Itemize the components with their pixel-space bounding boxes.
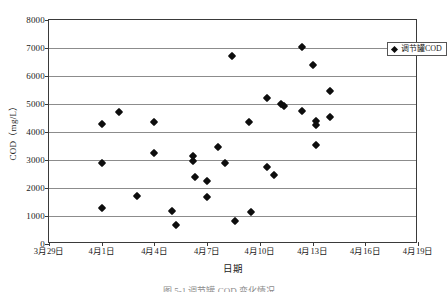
y-axis-tick xyxy=(45,132,49,133)
data-point xyxy=(298,107,306,115)
y-axis-tick xyxy=(45,48,49,49)
data-point xyxy=(203,177,211,185)
data-point xyxy=(270,171,278,179)
legend: 调节罐COD xyxy=(387,42,447,56)
gridline xyxy=(49,76,416,77)
x-axis-tick-label: 4月16日 xyxy=(350,247,381,256)
x-axis-tick-label: 4月10日 xyxy=(244,247,275,256)
x-axis-title: 日期 xyxy=(223,261,243,275)
data-point xyxy=(280,102,288,110)
y-axis-title: COD（mg/L） xyxy=(6,101,19,160)
y-axis-tick-label: 2000 xyxy=(26,184,45,193)
data-point xyxy=(97,120,105,128)
gridline xyxy=(49,132,416,133)
y-axis-tick xyxy=(45,188,49,189)
y-axis-tick-label: 6000 xyxy=(26,72,45,81)
gridline xyxy=(49,188,416,189)
x-axis-tick-label: 4月4日 xyxy=(141,247,168,256)
data-point xyxy=(168,207,176,215)
data-point xyxy=(263,94,271,102)
y-axis-tick-label: 3000 xyxy=(26,156,45,165)
gridline xyxy=(49,104,416,105)
data-point xyxy=(326,112,334,120)
data-point xyxy=(227,52,235,60)
data-point xyxy=(263,163,271,171)
y-axis-tick-label: 1000 xyxy=(26,212,45,221)
x-axis-tick-label: 3月29日 xyxy=(34,247,65,256)
data-point xyxy=(245,118,253,126)
data-point xyxy=(231,217,239,225)
plot-area: 800070006000500040003000200010000 3月29日4… xyxy=(48,19,417,243)
legend-diamond-icon xyxy=(391,45,398,52)
data-point xyxy=(133,192,141,200)
x-axis-tick-label: 4月1日 xyxy=(88,247,115,256)
data-point xyxy=(115,108,123,116)
y-axis-tick-label: 5000 xyxy=(26,100,45,109)
legend-label: 调节罐COD xyxy=(401,45,442,53)
x-axis-tick-label: 4月19日 xyxy=(403,247,434,256)
data-point xyxy=(308,61,316,69)
data-point xyxy=(203,193,211,201)
y-axis-tick xyxy=(45,76,49,77)
data-point xyxy=(97,204,105,212)
x-axis-tick-label: 4月13日 xyxy=(297,247,328,256)
y-axis-title-wrap: COD（mg/L） xyxy=(10,0,12,262)
data-point xyxy=(312,141,320,149)
y-axis-tick xyxy=(45,20,49,21)
data-point xyxy=(189,157,197,165)
data-point xyxy=(171,220,179,228)
y-axis-tick xyxy=(45,216,49,217)
y-axis-tick xyxy=(45,104,49,105)
x-axis-tick-label: 4月7日 xyxy=(194,247,221,256)
gridline xyxy=(49,48,416,49)
figure-caption: 图 5-1 调节罐 COD 变化情况 xyxy=(163,284,275,292)
y-axis-tick-label: 4000 xyxy=(26,128,45,137)
data-point xyxy=(191,173,199,181)
gridline xyxy=(49,216,416,217)
data-point xyxy=(150,118,158,126)
y-axis-tick-label: 8000 xyxy=(26,16,45,25)
data-point xyxy=(150,149,158,157)
data-point xyxy=(213,143,221,151)
data-point xyxy=(298,42,306,50)
y-axis-tick-label: 7000 xyxy=(26,44,45,53)
y-axis-tick xyxy=(45,160,49,161)
data-point xyxy=(326,87,334,95)
